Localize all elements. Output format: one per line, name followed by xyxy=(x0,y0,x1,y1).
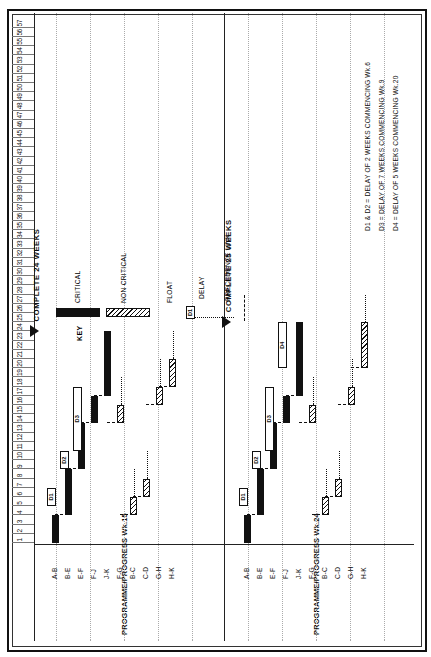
activity-label: B-E xyxy=(256,567,263,579)
axis-tick xyxy=(12,165,34,166)
axis-tick xyxy=(12,220,34,221)
axis-tick-label: 4 xyxy=(16,511,23,514)
row-guide xyxy=(158,13,159,641)
axis-tick xyxy=(12,468,34,469)
axis-tick-label: 26 xyxy=(16,305,23,311)
non-critical-bar xyxy=(348,387,355,405)
axis-tick-label: 16 xyxy=(16,397,23,403)
delay-box: D2 xyxy=(60,451,69,469)
programme-block: PROGRAMME/PROGRESS Wk.24A-BB-EE-FF-JJ-KF… xyxy=(234,13,414,641)
activity-label: G-H xyxy=(155,566,162,579)
key-label-delay: DELAY xyxy=(198,276,205,299)
activity-label: B-C xyxy=(321,567,328,579)
axis-tick-label: 48 xyxy=(16,103,23,109)
axis-tick-label: 7 xyxy=(16,483,23,486)
axis-tick xyxy=(12,358,34,359)
activity-label: J-K xyxy=(103,569,110,580)
axis-tick-label: 33 xyxy=(16,241,23,247)
axis-tick xyxy=(12,27,34,28)
critical-bar xyxy=(104,331,111,395)
delay-box: D1 xyxy=(47,488,56,506)
non-critical-bar-swatch xyxy=(106,308,150,317)
axis-tick-label: 21 xyxy=(16,351,23,357)
non-critical-bar xyxy=(169,359,176,387)
axis-tick xyxy=(12,266,34,267)
axis-tick xyxy=(12,487,34,488)
axis-tick-label: 53 xyxy=(16,57,23,63)
axis-tick-label: 9 xyxy=(16,465,23,468)
completion-milestone-marker xyxy=(30,325,39,337)
axis-tick-label: 34 xyxy=(16,232,23,238)
critical-bar xyxy=(65,469,72,515)
row-guide xyxy=(350,13,351,641)
key-label-precedence: PRECEDENCE LINK xyxy=(224,234,231,301)
note-d3: D3 = DELAY OF 7 WEEKS COMMENCING Wk.9 xyxy=(378,79,385,231)
float-line xyxy=(339,451,340,479)
axis-tick-label: 46 xyxy=(16,121,23,127)
axis-tick-label: 37 xyxy=(16,204,23,210)
axis-tick-label: 29 xyxy=(16,278,23,284)
row-guide xyxy=(90,13,91,641)
axis-tick xyxy=(12,137,34,138)
axis-tick-label: 3 xyxy=(16,520,23,523)
axis-tick xyxy=(12,321,34,322)
float-line xyxy=(173,331,174,359)
delay-label: D4 xyxy=(279,323,285,367)
note-d4: D4 = DELAY OF 5 WEEKS COMMENCING Wk.20 xyxy=(392,75,399,231)
activity-label: F-J xyxy=(282,569,289,579)
axis-tick-label: 44 xyxy=(16,140,23,146)
precedence-link-swatch xyxy=(244,295,245,321)
float-line xyxy=(365,295,366,323)
activity-label: G-H xyxy=(347,566,354,579)
activity-label: B-E xyxy=(64,567,71,579)
axis-tick xyxy=(12,36,34,37)
row-guide xyxy=(192,13,193,641)
axis-tick xyxy=(12,303,34,304)
axis-tick-label: 24 xyxy=(16,324,23,330)
axis-tick xyxy=(12,340,34,341)
critical-bar xyxy=(283,396,290,424)
chart-page: 1234567891011121314151617181920212223242… xyxy=(0,0,431,657)
axis-tick xyxy=(12,432,34,433)
axis-tick xyxy=(12,248,34,249)
axis-tick-label: 39 xyxy=(16,186,23,192)
axis-tick-label: 5 xyxy=(16,502,23,505)
axis-tick xyxy=(12,73,34,74)
axis-tick-label: 55 xyxy=(16,38,23,44)
axis-tick-label: 45 xyxy=(16,130,23,136)
axis-tick-label: 50 xyxy=(16,84,23,90)
axis-tick xyxy=(12,478,34,479)
axis-tick xyxy=(12,257,34,258)
axis-tick-label: 19 xyxy=(16,370,23,376)
axis-tick-label: 31 xyxy=(16,259,23,265)
activity-label: F-J xyxy=(90,569,97,579)
axis-tick-label: 28 xyxy=(16,287,23,293)
axis-tick xyxy=(12,514,34,515)
float-line xyxy=(352,359,353,387)
non-critical-bar xyxy=(143,479,150,497)
axis-tick xyxy=(12,146,34,147)
axis-tick-label: 38 xyxy=(16,195,23,201)
critical-bar xyxy=(52,515,59,543)
axis-tick xyxy=(12,367,34,368)
delay-label: D3 xyxy=(74,388,80,450)
programme-block: PROGRAMME/PROGRESS Wk.15A-BB-EE-FF-JJ-KF… xyxy=(42,13,222,641)
completion-milestone-marker xyxy=(222,316,231,328)
activity-label: A-B xyxy=(243,567,250,579)
axis-tick xyxy=(12,533,34,534)
axis-tick xyxy=(12,284,34,285)
axis-tick xyxy=(12,496,34,497)
axis-tick-label: 57 xyxy=(16,20,23,26)
delay-label: D2 xyxy=(61,452,67,468)
delay-label: D3 xyxy=(266,388,272,450)
axis-tick-label: 12 xyxy=(16,434,23,440)
axis-tick-label: 52 xyxy=(16,66,23,72)
axis-tick-label: 47 xyxy=(16,112,23,118)
key-label-float: FLOAT xyxy=(166,281,173,303)
axis-tick-label: 8 xyxy=(16,474,23,477)
axis-tick xyxy=(12,183,34,184)
axis-tick-label: 35 xyxy=(16,222,23,228)
non-critical-bar xyxy=(130,497,137,515)
axis-tick xyxy=(12,505,34,506)
axis-tick-label: 17 xyxy=(16,388,23,394)
